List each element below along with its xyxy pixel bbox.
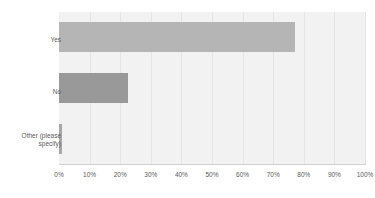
category-label-yes: Yes [50,36,61,44]
gridline-80 [304,12,305,164]
x-tick-20: 20% [103,170,137,179]
x-tick-40: 40% [164,170,198,179]
x-tick-30: 30% [134,170,168,179]
category-label-no: No [53,88,61,96]
x-tick-90: 90% [317,170,351,179]
bar-no [59,73,128,103]
x-tick-10: 10% [73,170,107,179]
x-tick-100: 100% [348,170,375,179]
gridline-100 [365,12,366,164]
bar-chart: Yes No Other (please specify) 0% 10% 20%… [0,0,375,198]
gridline-90 [334,12,335,164]
plot-area [59,12,365,164]
x-tick-60: 60% [226,170,260,179]
x-tick-70: 70% [256,170,290,179]
x-axis-line [59,164,366,165]
bar-yes [59,22,295,52]
category-label-other: Other (please specify) [22,132,61,148]
x-tick-50: 50% [195,170,229,179]
x-tick-0: 0% [42,170,76,179]
x-tick-80: 80% [287,170,321,179]
